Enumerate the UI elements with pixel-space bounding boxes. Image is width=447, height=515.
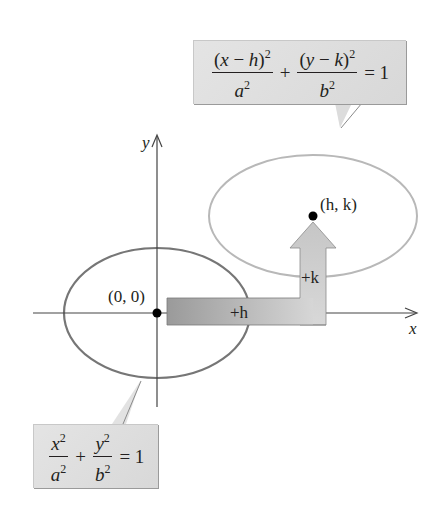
origin-label: (0, 0) <box>108 287 145 306</box>
translated-equation: (x − h)2 a2 + (y − k)2 b2 = 1 <box>208 43 392 102</box>
bottom-callout-tail <box>112 380 141 424</box>
horizontal-shift-label: +h <box>230 303 249 322</box>
vertical-shift-label: +k <box>301 268 320 287</box>
y-axis-label: y <box>140 133 150 152</box>
fraction-x-term: (x − h)2 a2 <box>212 43 273 102</box>
translated-equation-callout: (x − h)2 a2 + (y − k)2 b2 = 1 <box>193 40 406 104</box>
plus-sign: + <box>280 62 291 84</box>
center-point <box>309 212 318 221</box>
standard-equation-callout: x2 a2 + y2 b2 = 1 <box>33 424 158 488</box>
center-label: (h, k) <box>320 195 357 214</box>
equals-one: = 1 <box>364 62 389 84</box>
standard-equation: x2 a2 + y2 b2 = 1 <box>45 427 148 486</box>
fraction-x-term: x2 a2 <box>49 427 69 486</box>
x-axis-label: x <box>408 319 417 338</box>
fraction-y-term: (y − k)2 b2 <box>297 43 357 102</box>
origin-point <box>153 309 162 318</box>
equals-one: = 1 <box>119 446 144 468</box>
bottom-callout-tail-edge <box>123 381 141 424</box>
fraction-y-term: y2 b2 <box>93 427 113 486</box>
plus-sign: + <box>75 446 86 468</box>
